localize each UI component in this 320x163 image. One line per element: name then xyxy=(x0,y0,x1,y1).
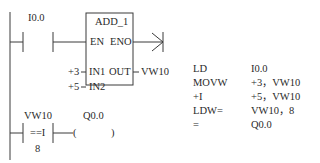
stl-op: = xyxy=(193,118,199,132)
in2-value: +5 xyxy=(68,81,79,93)
in1-value: +3 xyxy=(68,66,79,78)
out-value: VW10 xyxy=(141,66,169,78)
stl-operand: +3，VW10 xyxy=(251,76,300,90)
pin-eno-label: ENO xyxy=(110,36,132,48)
stl-operand: I0.0 xyxy=(251,62,268,76)
stl-operand: VW10，8 xyxy=(251,104,294,118)
compare-operator: ==I xyxy=(30,127,45,139)
stl-operand: Q0.0 xyxy=(251,118,272,132)
stl-op: LDW= xyxy=(193,104,223,118)
pin-en-label: EN xyxy=(90,36,104,48)
add-block-title: ADD_1 xyxy=(95,16,128,28)
pin-in1-label: IN1 xyxy=(89,66,105,78)
contact-address-label: I0.0 xyxy=(28,12,45,24)
compare-value: 8 xyxy=(35,143,40,155)
pin-out-label: OUT xyxy=(109,66,131,78)
coil-address-label: Q0.0 xyxy=(83,110,104,122)
pin-in2-label: IN2 xyxy=(89,81,105,93)
stl-operand: +5，VW10 xyxy=(251,90,300,104)
stl-op: MOVW xyxy=(193,76,227,90)
stl-op: +I xyxy=(193,90,202,104)
stl-op: LD xyxy=(193,62,207,76)
coil-left-paren: ( xyxy=(73,127,77,139)
compare-address-label: VW10 xyxy=(24,110,52,122)
coil-right-paren: ) xyxy=(111,127,115,139)
